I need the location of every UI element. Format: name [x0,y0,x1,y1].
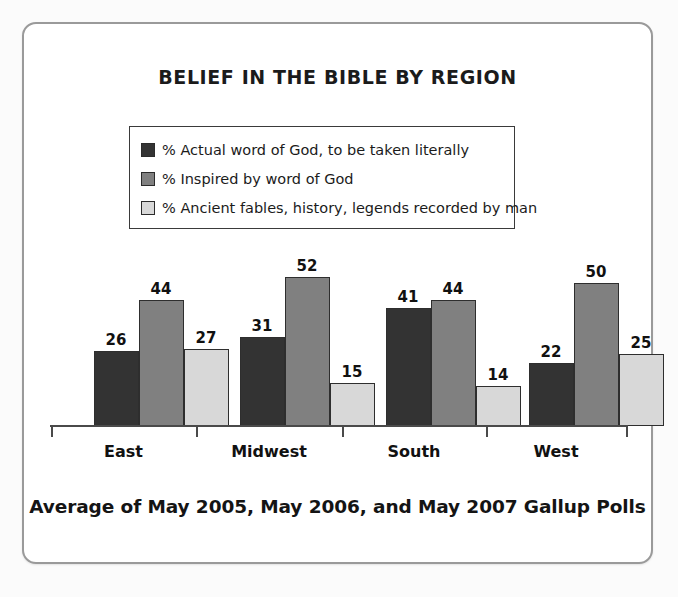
plot-area: 264427315215414414225025 [24,24,655,566]
axis-tick [51,425,53,437]
bar [94,351,139,426]
axis-tick [486,425,488,437]
category-label-south: South [344,442,484,461]
bar-value-label: 41 [386,288,430,306]
legend-item-label: % Actual word of God, to be taken litera… [162,142,469,158]
category-label-midwest: Midwest [199,442,339,461]
bar-value-label: 14 [476,366,520,384]
bar [386,308,431,426]
axis-tick [196,425,198,437]
chart-legend: % Actual word of God, to be taken litera… [129,126,515,229]
bar-value-label: 27 [184,329,228,347]
bar-group: 315215 [240,254,375,426]
bars-container: 264427315215414414225025 [50,254,630,426]
bar [529,363,574,426]
legend-item: % Inspired by word of God [141,164,514,193]
bar [431,300,476,426]
chart-card: BELIEF IN THE BIBLE BY REGION % Actual w… [22,22,653,564]
bar-value-label: 50 [574,263,618,281]
legend-item-label: % Inspired by word of God [162,171,354,187]
bar [574,283,619,426]
legend-swatch-light [141,201,155,215]
bar-value-label: 44 [139,280,183,298]
bar [285,277,330,426]
legend-swatch-dark [141,143,155,157]
bar-group: 414414 [386,254,521,426]
bar-value-label: 52 [285,257,329,275]
bar-value-label: 31 [240,317,284,335]
chart-footer: Average of May 2005, May 2006, and May 2… [24,496,651,517]
legend-item: % Actual word of God, to be taken litera… [141,135,514,164]
bar-value-label: 25 [619,334,663,352]
category-label-east: East [54,442,194,461]
bar-value-label: 44 [431,280,475,298]
bar [184,349,229,426]
axis-tick [342,425,344,437]
bar-group: 264427 [94,254,229,426]
bar-value-label: 15 [330,363,374,381]
legend-swatch-medium [141,172,155,186]
bar-group: 225025 [529,254,664,426]
bar [619,354,664,426]
legend-item-label: % Ancient fables, history, legends recor… [162,200,537,216]
bar [476,386,521,426]
bar [330,383,375,426]
bar-value-label: 26 [94,331,138,349]
legend-item: % Ancient fables, history, legends recor… [141,193,514,222]
axis-tick [626,425,628,437]
bar [139,300,184,426]
chart-title: BELIEF IN THE BIBLE BY REGION [24,66,651,88]
bar [240,337,285,426]
category-label-west: West [486,442,626,461]
x-axis-line [50,425,628,427]
bar-value-label: 22 [529,343,573,361]
